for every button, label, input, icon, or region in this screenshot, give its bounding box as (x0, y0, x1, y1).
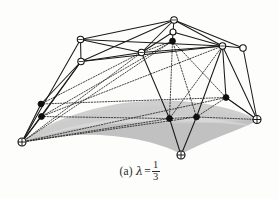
vertex-apex-inner (170, 29, 176, 35)
caption-label: (a) (119, 165, 132, 177)
caption-fraction-denominator: 3 (152, 172, 159, 183)
vertex-apex-dot (170, 38, 176, 44)
figure-caption: (a)λ=13 (0, 160, 279, 182)
vertex-upper-right-b (240, 45, 246, 51)
solid-edge (42, 62, 82, 117)
caption-fraction-numerator: 1 (152, 160, 159, 172)
solid-edge (243, 48, 257, 120)
figure-container: (a)λ=13 (0, 0, 279, 199)
solid-edge (81, 20, 175, 40)
solid-edge (223, 46, 227, 98)
caption-equals: = (144, 165, 151, 177)
solid-edge (142, 20, 175, 53)
solid-edge (174, 20, 223, 46)
shaded-surface-group (22, 100, 257, 154)
solid-edge (223, 46, 258, 120)
caption-fraction: 13 (152, 160, 159, 182)
caption-lambda-symbol: λ (136, 164, 144, 178)
